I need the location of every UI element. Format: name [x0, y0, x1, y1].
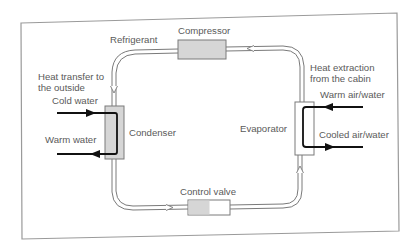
compressor-label: Compressor	[178, 25, 231, 36]
control-valve-box	[188, 200, 230, 215]
cold-water-label: Cold water	[52, 95, 99, 106]
heat-transfer-label-line2: the outside	[38, 82, 85, 93]
warm-water-label: Warm water	[45, 134, 97, 145]
refrigerant-label: Refrigerant	[110, 34, 158, 45]
cooled-air-water-label: Cooled air/water	[319, 129, 390, 140]
refrigeration-cycle-diagram: Compressor Refrigerant Heat transfer to …	[0, 0, 417, 251]
condenser-label: Condenser	[129, 127, 177, 138]
condenser-box	[105, 106, 124, 159]
heat-transfer-label-line1: Heat transfer to	[38, 71, 104, 82]
warm-air-water-label: Warm air/water	[320, 89, 385, 100]
evaporator-label: Evaporator	[240, 123, 288, 134]
heat-extraction-label-line2: from the cabin	[310, 73, 371, 84]
control-valve-label: Control valve	[180, 186, 236, 197]
compressor-box	[178, 40, 226, 59]
heat-extraction-label-line1: Heat extraction	[310, 62, 375, 73]
